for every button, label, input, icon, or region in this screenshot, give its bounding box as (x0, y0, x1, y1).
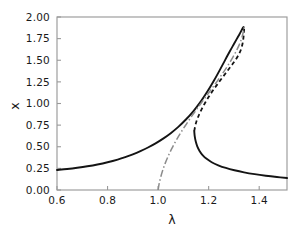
y-tick-label: 0.25 (26, 162, 50, 174)
x-tick-label: 0.6 (48, 194, 65, 206)
figure-container: 0.60.81.01.21.4 0.000.250.500.751.001.25… (0, 0, 305, 234)
y-tick-label: 1.75 (26, 32, 50, 44)
x-axis-title: λ (168, 212, 176, 227)
y-tick-label: 0.75 (26, 119, 50, 131)
y-tick-label: 2.00 (26, 11, 50, 23)
y-axis-tick-labels: 0.000.250.500.751.001.251.501.752.00 (26, 11, 50, 196)
y-tick-label: 0.00 (26, 184, 50, 196)
y-tick-label: 1.25 (26, 76, 50, 88)
plot-background (57, 17, 287, 190)
x-tick-label: 1.0 (149, 194, 166, 206)
y-tick-label: 1.00 (26, 97, 50, 109)
y-axis-title: x (7, 102, 22, 109)
x-axis-tick-labels: 0.60.81.01.21.4 (48, 194, 268, 206)
y-tick-label: 0.50 (26, 140, 50, 152)
y-tick-label: 1.50 (26, 54, 50, 66)
x-tick-label: 0.8 (99, 194, 116, 206)
x-tick-label: 1.2 (200, 194, 217, 206)
x-tick-label: 1.4 (251, 194, 268, 206)
bifurcation-chart: 0.60.81.01.21.4 0.000.250.500.751.001.25… (0, 0, 305, 234)
